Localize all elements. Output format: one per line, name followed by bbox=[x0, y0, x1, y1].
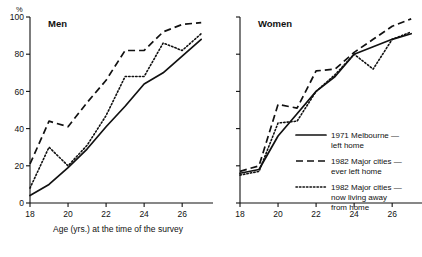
dual-line-chart: 0204060801001820222426Men1820222426Women… bbox=[0, 0, 422, 257]
y-tick-label: 40 bbox=[15, 124, 25, 134]
legend-entry-dotted: 1982 Major cities —now living awayfrom h… bbox=[296, 183, 402, 212]
panel-title: Men bbox=[48, 18, 67, 29]
series-line-dotted bbox=[240, 32, 411, 175]
legend-label-line3: from home bbox=[331, 203, 370, 212]
x-tick-label: 20 bbox=[63, 209, 73, 219]
x-tick-label: 22 bbox=[311, 209, 321, 219]
legend-label-line2: ever left home bbox=[331, 167, 382, 176]
y-tick-label: 0 bbox=[19, 198, 24, 208]
x-tick-label: 20 bbox=[273, 209, 283, 219]
y-tick-label: 20 bbox=[15, 161, 25, 171]
series-line-solid bbox=[30, 39, 201, 195]
x-tick-label: 22 bbox=[101, 209, 111, 219]
y-tick-label: 80 bbox=[15, 49, 25, 59]
x-tick-label: 26 bbox=[177, 209, 187, 219]
legend-label-line1: 1971 Melbourne — bbox=[331, 131, 399, 140]
figure-container: 0204060801001820222426Men1820222426Women… bbox=[0, 0, 422, 257]
x-tick-label: 18 bbox=[235, 209, 245, 219]
series-line-dotted bbox=[30, 34, 201, 188]
legend-label-line1: 1982 Major cities — bbox=[331, 183, 402, 192]
legend-label-line1: 1982 Major cities — bbox=[331, 157, 402, 166]
y-tick-label: 60 bbox=[15, 87, 25, 97]
y-unit-label: % bbox=[16, 5, 23, 14]
series-line-dashed bbox=[30, 23, 201, 164]
legend: 1971 Melbourne —left home1982 Major citi… bbox=[296, 131, 402, 212]
legend-label-line2: left home bbox=[331, 141, 364, 150]
panel-men: 0204060801001820222426Men bbox=[10, 12, 213, 219]
x-tick-label: 24 bbox=[139, 209, 149, 219]
x-tick-label: 26 bbox=[387, 209, 397, 219]
x-tick-label: 18 bbox=[25, 209, 35, 219]
panel-title: Women bbox=[258, 18, 292, 29]
x-axis-title: Age (yrs.) at the time of the survey bbox=[53, 224, 184, 234]
legend-entry-dashed: 1982 Major cities —ever left home bbox=[296, 157, 402, 176]
legend-entry-solid: 1971 Melbourne —left home bbox=[296, 131, 399, 150]
legend-label-line2: now living away bbox=[331, 193, 387, 202]
